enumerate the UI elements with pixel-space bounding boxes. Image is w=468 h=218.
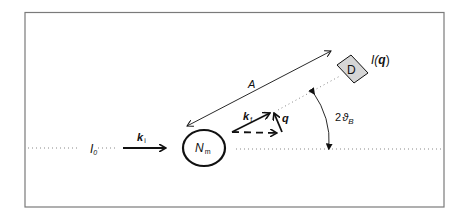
incident-wavevector-label: ki <box>137 131 146 144</box>
scattering-diagram: I0 ki Nm A kf q 2ϑB D I(q) <box>0 0 468 218</box>
figure-frame <box>25 13 444 208</box>
scattering-vector-label: q <box>282 112 289 124</box>
incident-intensity-label: I0 <box>90 142 97 156</box>
detector-label: D <box>347 63 356 77</box>
incident-copy-arrow <box>232 132 277 133</box>
scattering-angle-label: 2ϑB <box>335 111 354 126</box>
distance-label: A <box>247 78 255 90</box>
scattering-vector-arrow <box>274 113 282 132</box>
scattered-intensity-label: I(q) <box>371 53 390 67</box>
scattered-direction <box>278 76 340 110</box>
scattering-angle-arc <box>313 92 329 147</box>
distance-arrow <box>187 51 331 126</box>
sample-label: Nm <box>195 141 211 155</box>
final-wavevector-label: kf <box>243 110 252 123</box>
